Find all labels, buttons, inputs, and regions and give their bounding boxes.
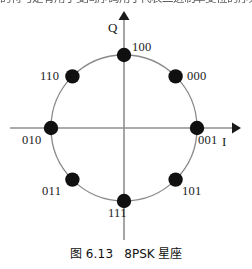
constellation-point-000[interactable] [168, 69, 182, 83]
constellation-point-110[interactable] [65, 69, 79, 83]
point-label-001: 001 [198, 134, 218, 147]
point-label-000: 000 [187, 70, 207, 83]
figure-caption: 图 6.138PSK 星座 [0, 247, 252, 262]
point-label-100: 100 [132, 41, 152, 54]
point-label-011: 011 [42, 185, 61, 198]
i-axis-arrowhead [232, 123, 241, 134]
constellation-point-011[interactable] [65, 172, 79, 186]
point-label-110: 110 [40, 70, 59, 83]
point-label-111: 111 [108, 207, 127, 220]
point-label-010: 010 [22, 134, 42, 147]
caption-title: 8PSK 星座 [124, 247, 182, 261]
q-axis-arrowhead [119, 11, 130, 20]
constellation-point-101[interactable] [168, 172, 182, 186]
point-label-101: 101 [182, 185, 202, 198]
constellation-figure: 100 000 001 101 111 011 010 110 Q I [0, 8, 252, 240]
constellation-point-100[interactable] [117, 48, 131, 62]
caption-figure-number: 图 6.13 [70, 247, 114, 261]
constellation-point-010[interactable] [44, 121, 58, 135]
clipped-body-text: 的符号是有用于变间序码用于代表二进制单变位的序列 [0, 0, 252, 7]
q-axis-label: Q [108, 21, 117, 34]
i-axis-label: I [222, 135, 226, 148]
